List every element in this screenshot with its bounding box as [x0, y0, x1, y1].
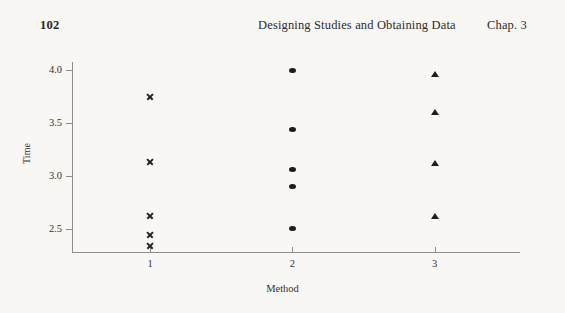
y-tick-label: 3.5: [32, 117, 62, 128]
x-tick-label: 2: [280, 258, 304, 269]
x-tick-mark: [435, 247, 436, 253]
data-point-marker: [289, 127, 296, 132]
figure-dotplot: 4.03.53.02.5 123 Time Method: [0, 0, 565, 313]
y-axis-title: Time: [21, 124, 32, 184]
y-tick-label: 2.5: [32, 223, 62, 234]
y-tick-mark: [66, 70, 72, 71]
y-tick-mark: [66, 229, 72, 230]
y-tick-mark: [66, 123, 72, 124]
data-point-marker: [146, 92, 155, 101]
data-point-marker: [289, 184, 296, 189]
data-point-marker: [431, 160, 439, 166]
data-point-marker: [146, 212, 155, 221]
x-tick-label: 3: [423, 258, 447, 269]
data-point-marker: [146, 241, 155, 250]
x-axis-title: Method: [0, 283, 565, 294]
y-axis-line: [72, 62, 73, 253]
data-point-marker: [289, 226, 296, 231]
y-tick-mark: [66, 176, 72, 177]
y-tick-label: 3.0: [32, 170, 62, 181]
x-tick-label: 1: [138, 258, 162, 269]
data-point-marker: [146, 157, 155, 166]
data-point-marker: [431, 71, 439, 77]
plot-area: 4.03.53.02.5 123 Time Method: [0, 0, 565, 313]
x-tick-mark: [292, 247, 293, 253]
data-point-marker: [146, 231, 155, 240]
y-tick-label: 4.0: [32, 64, 62, 75]
data-point-marker: [431, 213, 439, 219]
data-point-marker: [289, 167, 296, 172]
data-point-marker: [431, 109, 439, 115]
x-axis-line: [72, 252, 520, 253]
data-point-marker: [289, 68, 296, 73]
